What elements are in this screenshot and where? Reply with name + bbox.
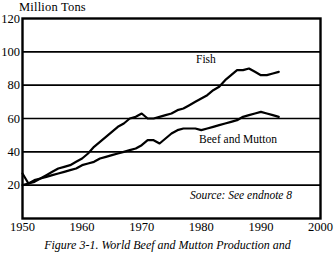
source-note: Source: See endnote 8 [190,189,292,201]
series-label-beef: Beef and Mutton [199,133,277,145]
data-series [23,69,279,186]
x-tick-label: 1990 [241,221,281,234]
x-tick-label: 2000 [301,221,335,234]
x-tick-label: 1970 [122,221,162,234]
series-line-beef-and-mutton [23,112,279,185]
figure-caption: Figure 3-1. World Beef and Mutton Produc… [0,238,335,253]
series-label-fish: Fish [196,53,216,65]
x-tick-label: 1980 [181,221,221,234]
x-tick-label: 1960 [62,221,102,234]
x-tick-label: 1950 [3,221,43,234]
